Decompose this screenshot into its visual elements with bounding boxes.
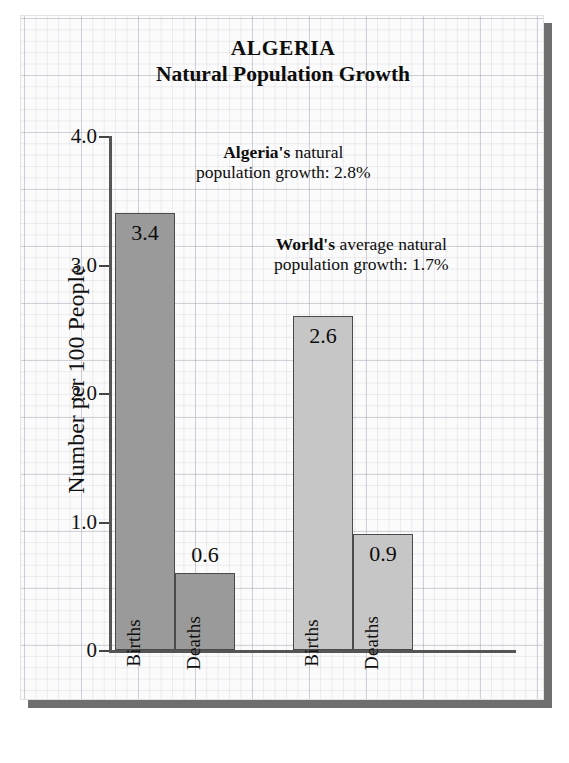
annotation-world-rest: average natural (335, 234, 447, 254)
y-tick-mark (99, 650, 109, 652)
y-axis-line (109, 136, 112, 651)
annotation-world-line1: World's average natural (274, 234, 449, 254)
bar-world-births[interactable]: 2.6 Births (293, 316, 353, 650)
y-tick-mark (99, 522, 109, 524)
bar-category-label: Births (123, 619, 145, 667)
bar-value-label: 0.6 (191, 542, 219, 568)
annotation-algeria-lead: Algeria's (223, 142, 290, 162)
bar-algeria-deaths[interactable]: 0.6 Deaths (175, 573, 235, 650)
bar-value-label: 2.6 (309, 323, 337, 349)
annotation-algeria-rest: natural (290, 142, 343, 162)
page-title: ALGERIA (21, 36, 545, 61)
bar-value-label: 3.4 (131, 220, 159, 246)
bar-world-deaths[interactable]: 0.9 Deaths (353, 534, 413, 650)
y-tick-mark (99, 136, 109, 138)
bar-algeria-births[interactable]: 3.4 Births (115, 213, 175, 650)
y-tick-label: 3.0 (71, 252, 97, 277)
y-tick-mark (99, 265, 109, 267)
annotation-algeria: Algeria's natural population growth: 2.8… (196, 142, 371, 182)
chart-page: ALGERIA Natural Population Growth Number… (20, 15, 544, 700)
page-subtitle: Natural Population Growth (21, 61, 545, 87)
annotation-world: World's average natural population growt… (274, 234, 449, 274)
y-tick-label: 4.0 (71, 124, 97, 149)
annotation-world-lead: World's (276, 234, 335, 254)
bar-value-label: 0.9 (369, 541, 397, 567)
bar-category-label: Deaths (183, 616, 205, 670)
y-tick-label: 1.0 (71, 509, 97, 534)
y-tick-label: 0 (87, 638, 98, 663)
y-tick-label: 2.0 (71, 381, 97, 406)
chart-title-block: ALGERIA Natural Population Growth (21, 36, 545, 87)
plot-area: 0 1.0 2.0 3.0 4.0 3.4 Births 0.6 Deaths (109, 136, 521, 650)
annotation-algeria-line2: population growth: 2.8% (196, 162, 371, 182)
annotation-algeria-line1: Algeria's natural (196, 142, 371, 162)
bar-category-label: Births (301, 619, 323, 667)
bar-category-label: Deaths (361, 616, 383, 670)
annotation-world-line2: population growth: 1.7% (274, 254, 449, 274)
y-tick-mark (99, 393, 109, 395)
